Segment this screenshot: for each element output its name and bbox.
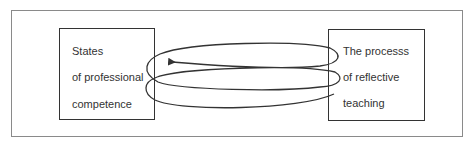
spiral-connector-arrow (0, 0, 473, 148)
